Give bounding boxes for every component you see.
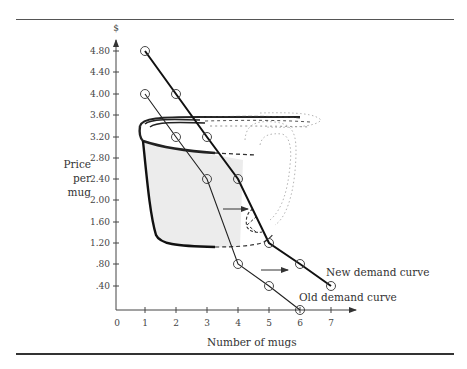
y-tick-label: 2.40 <box>90 174 110 184</box>
y-tick-label: 2.00 <box>90 195 110 205</box>
y-tick-label: .80 <box>96 259 111 269</box>
y-tick-label: .40 <box>96 281 111 291</box>
y-ticks: 4.80 4.40 4.00 3.60 3.20 2.80 2.40 2.00 … <box>90 46 119 291</box>
y-tick-label: 1.60 <box>90 217 110 227</box>
old-demand-label: Old demand curve <box>299 291 397 303</box>
y-unit-label: $ <box>113 23 119 33</box>
mug-illustration <box>140 113 321 247</box>
demand-chart: $ 4.80 4.40 4.00 3.60 3.20 2.80 2.40 2.0… <box>0 0 467 369</box>
x-tick-label: 6 <box>297 318 303 328</box>
y-tick-label: 4.80 <box>90 46 110 56</box>
y-tick-label: 3.60 <box>90 110 110 120</box>
x-tick-label: 0 <box>114 318 120 328</box>
new-demand-label: New demand curve <box>326 266 430 278</box>
x-tick-label: 5 <box>266 318 272 328</box>
y-tick-label: 1.20 <box>90 238 110 248</box>
y-tick-label: 4.00 <box>90 89 110 99</box>
x-tick-label: 4 <box>235 318 241 328</box>
x-tick-label: 3 <box>204 318 210 328</box>
x-tick-label: 2 <box>173 318 179 328</box>
x-tick-label: 1 <box>142 318 148 328</box>
y-tick-label: 2.80 <box>90 153 110 163</box>
y-tick-label: 4.40 <box>90 67 110 77</box>
x-axis-title: Number of mugs <box>207 336 297 348</box>
x-tick-label: 7 <box>328 318 334 328</box>
y-tick-label: 3.20 <box>90 132 110 142</box>
